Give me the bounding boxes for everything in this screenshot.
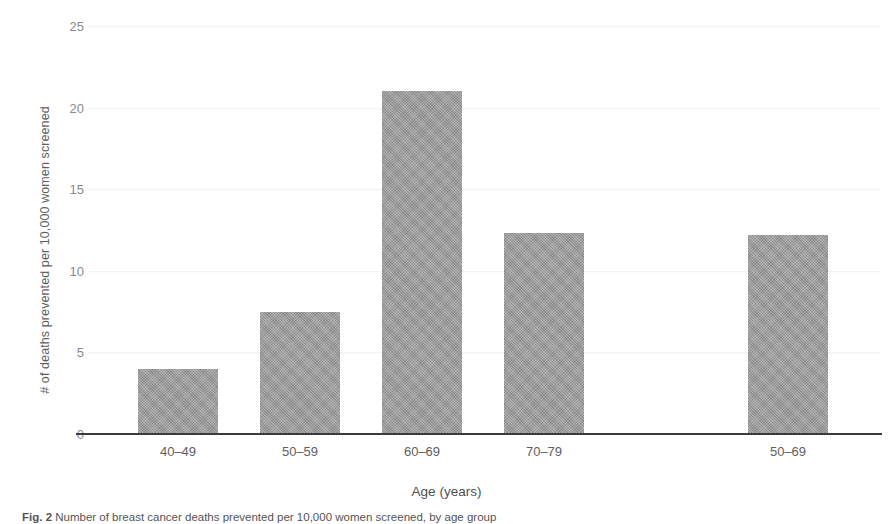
figure-caption: Fig. 2 Number of breast cancer deaths pr… <box>22 511 882 524</box>
y-axis-tick-label: 20 <box>44 100 84 115</box>
y-axis-tick-labels: 0510152025 <box>40 26 84 434</box>
y-axis-tick-label: 5 <box>44 345 84 360</box>
x-axis-tick-label: 60–69 <box>404 444 440 459</box>
bar <box>748 235 828 434</box>
x-axis-tick-label: 70–79 <box>526 444 562 459</box>
bar <box>382 91 462 434</box>
y-axis-tick-label: 25 <box>44 19 84 34</box>
bar <box>138 369 218 434</box>
y-axis-tick-label: 15 <box>44 182 84 197</box>
figure-caption-text: Number of breast cancer deaths prevented… <box>55 511 496 523</box>
gridline <box>88 108 880 110</box>
gridline <box>88 26 880 28</box>
x-axis-tick-label: 40–49 <box>160 444 196 459</box>
x-axis-line <box>76 433 882 435</box>
bar-chart-figure: # of deaths prevented per 10,000 women s… <box>0 0 893 524</box>
x-axis-tick-label: 50–59 <box>282 444 318 459</box>
gridline <box>88 189 880 191</box>
bar <box>504 233 584 434</box>
x-axis-title: Age (years) <box>0 484 893 499</box>
plot-area <box>88 26 880 434</box>
x-axis-tick-label: 50–69 <box>770 444 806 459</box>
bar <box>260 312 340 434</box>
figure-caption-prefix: Fig. 2 <box>22 511 52 523</box>
y-axis-tick-label: 10 <box>44 263 84 278</box>
